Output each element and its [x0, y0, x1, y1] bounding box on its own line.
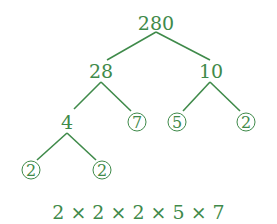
- prime-node-2-ll-left: 2: [22, 161, 41, 180]
- node-root: 280: [138, 13, 174, 33]
- prime-node-5: 5: [168, 113, 187, 132]
- factor-tree-diagram: 280 28 10 4 7 5 2 2 2 2 × 2 × 2 × 5 × 7: [0, 0, 277, 224]
- node-left-left: 4: [61, 112, 73, 132]
- node-left: 28: [89, 61, 113, 81]
- node-right: 10: [199, 61, 223, 81]
- prime-factorization-result: 2 × 2 × 2 × 5 × 7: [52, 201, 224, 223]
- prime-node-2-right: 2: [237, 113, 256, 132]
- prime-node-2-ll-right: 2: [93, 161, 112, 180]
- prime-node-7: 7: [128, 113, 147, 132]
